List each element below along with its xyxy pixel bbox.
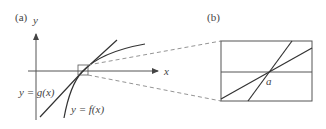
connector-top <box>88 41 221 65</box>
diagram-canvas <box>0 0 326 129</box>
y-axis-label: y <box>33 15 38 26</box>
curve-g-label: y = g(x) <box>19 87 55 98</box>
panel-b-label: (b) <box>207 12 220 23</box>
connector-bottom <box>88 75 221 101</box>
zoom-region-box <box>78 65 88 75</box>
figure: (a) y x y = g(x) y = f(x) (b) a <box>0 0 326 129</box>
x-axis-label: x <box>164 66 169 77</box>
curve-f-label: y = f(x) <box>71 104 104 115</box>
magnified-curve-shallow <box>221 48 312 99</box>
panel-a-label: (a) <box>15 12 27 23</box>
intersection-point-label: a <box>266 76 272 87</box>
